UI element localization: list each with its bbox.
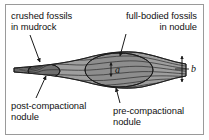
figure-container: crushed fossils in mudrock full-bodied f… <box>0 0 209 140</box>
label-pre-compactional-nodule: pre-compactional nodule <box>113 105 184 128</box>
leader-post-compactional <box>36 76 46 98</box>
leader-pre-compactional <box>116 88 120 103</box>
dimension-label-a: a <box>115 64 120 75</box>
dimension-label-b: b <box>191 63 196 74</box>
leader-crushed-fossils <box>30 35 40 62</box>
label-post-compactional-nodule: post-compactional nodule <box>11 100 86 123</box>
label-full-bodied-fossils: full-bodied fossils in nodule <box>105 10 197 33</box>
label-crushed-fossils: crushed fossils in mudrock <box>11 10 72 33</box>
